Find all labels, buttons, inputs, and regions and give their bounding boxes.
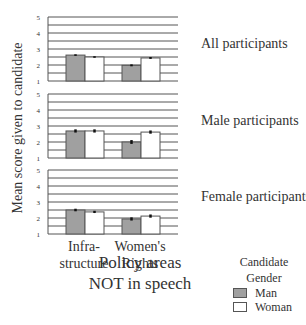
x-axis-title: Policy areas NOT in speech (80, 252, 200, 294)
legend-title-line2: Gender (225, 270, 303, 286)
panel-title-male: Male participants (201, 113, 299, 129)
legend-label-man: Man (255, 286, 277, 301)
bar-man (122, 65, 141, 81)
legend: Candidate Gender Man Woman (230, 254, 303, 314)
y-tick-label: 1 (37, 78, 41, 86)
y-tick-label: 4 (37, 30, 41, 38)
bar-woman (141, 216, 160, 234)
bar-woman (85, 131, 104, 158)
y-tick-label: 2 (37, 139, 41, 147)
y-tick-label: 4 (37, 183, 41, 191)
legend-title-line1: Candidate (225, 254, 303, 270)
panel-title-female: Female participants (201, 189, 306, 205)
y-axis-label: Mean score given to candidate (10, 18, 26, 238)
bar-woman (85, 212, 104, 234)
bar-woman (141, 132, 160, 158)
legend-swatch-woman (233, 302, 247, 312)
y-tick-label: 5 (37, 14, 41, 22)
y-tick-label: 1 (37, 155, 41, 163)
y-tick-label: 2 (37, 62, 41, 70)
bar-man (66, 131, 85, 158)
legend-label-woman: Woman (255, 300, 292, 315)
y-tick-label: 1 (37, 231, 41, 239)
x-axis-title-line1: Policy areas (80, 252, 200, 273)
bar-man (122, 142, 141, 158)
y-tick-label: 3 (37, 123, 41, 131)
legend-title: Candidate Gender (225, 254, 303, 286)
bar-man (66, 55, 85, 81)
legend-item-woman: Woman (233, 300, 303, 314)
legend-swatch-man (233, 288, 247, 298)
panel-title-all: All participants (201, 36, 288, 52)
y-tick-label: 5 (37, 167, 41, 175)
x-axis-title-line2: NOT in speech (80, 273, 200, 294)
y-tick-label: 2 (37, 215, 41, 223)
y-tick-label: 5 (37, 91, 41, 99)
y-tick-label: 3 (37, 46, 41, 54)
legend-item-man: Man (233, 286, 303, 300)
bar-woman (141, 58, 160, 81)
bar-man (122, 219, 141, 234)
y-tick-label: 3 (37, 199, 41, 207)
bar-woman (85, 57, 104, 81)
y-tick-label: 4 (37, 107, 41, 115)
bar-man (66, 210, 85, 234)
